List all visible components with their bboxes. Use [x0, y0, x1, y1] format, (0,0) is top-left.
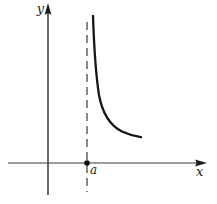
y-axis-arrowhead-icon [45, 3, 52, 15]
function-curve [93, 16, 141, 137]
y-axis-label: y [28, 2, 44, 15]
point-a-label: a [90, 164, 97, 177]
x-axis-label: x [196, 165, 203, 178]
point-a-dot [84, 160, 90, 166]
asymptote-graph-figure: y x a [0, 0, 217, 204]
graph-canvas [0, 0, 217, 204]
